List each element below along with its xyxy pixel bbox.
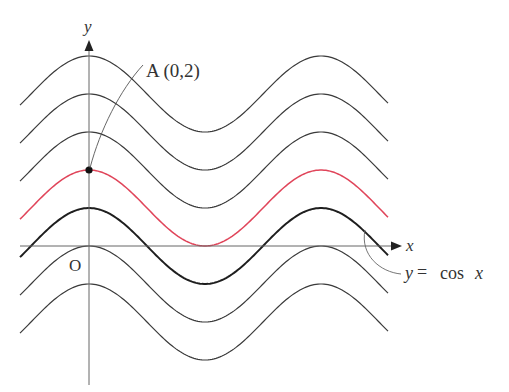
curve-label-fn: cos <box>440 263 464 283</box>
curve-plus-4 <box>20 56 388 132</box>
origin-label: O <box>69 256 81 275</box>
curve-label-y: y <box>403 263 413 283</box>
curve-family <box>20 56 388 360</box>
curve-label-x: x <box>474 263 483 283</box>
curve-equation-label: y = cos x <box>403 262 483 283</box>
x-axis-label: x <box>405 236 414 255</box>
point-a-marker <box>85 166 92 173</box>
plot-area: y x O A (0,2) y = cos x <box>0 0 509 392</box>
y-axis-label: y <box>82 17 92 36</box>
cosine-translation-diagram: y x O A (0,2) y = cos x <box>0 0 509 392</box>
point-a-label: A (0,2) <box>146 60 200 82</box>
curve-label-equals: = <box>417 262 427 282</box>
y-axis-arrow-icon <box>85 40 94 51</box>
x-axis-arrow-icon <box>391 242 402 251</box>
point-a-leader-line <box>90 65 143 168</box>
